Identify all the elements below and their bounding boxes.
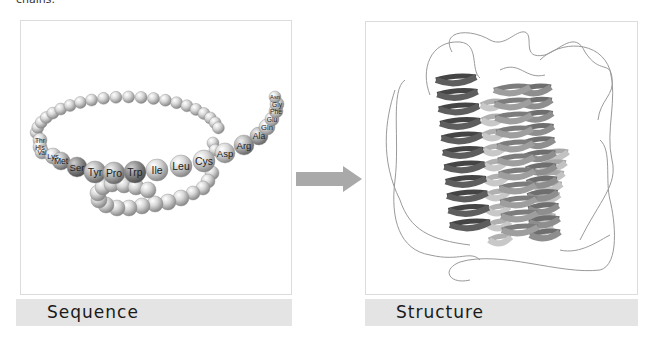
residue-label: Ile	[151, 165, 162, 176]
residue-label: Thr	[35, 137, 46, 144]
residue-label: Asp	[217, 148, 233, 159]
residue-bead	[98, 92, 110, 104]
residue-bead	[148, 92, 160, 104]
sequence-upper-ring	[30, 91, 224, 156]
residue-label: Glu	[267, 116, 278, 123]
residue-label: Gly	[272, 101, 283, 109]
residue-label: Ser	[70, 162, 85, 173]
residue-label: Asn	[270, 94, 280, 100]
residue-bead	[110, 91, 122, 103]
residue-label: Pro	[106, 168, 122, 179]
residue-label: Arg	[237, 140, 252, 151]
illustration-canvas: ThrHisValLysMetSerTyrProTrpIleLeuCysAspA…	[0, 0, 655, 346]
residue-label: Trp	[127, 167, 142, 178]
residue-bead	[140, 182, 156, 198]
residue-label: Gln	[261, 123, 273, 132]
residue-bead	[64, 100, 76, 112]
residue-bead	[212, 122, 224, 134]
residue-label: Val	[37, 149, 47, 156]
residue-label: Leu	[172, 161, 190, 172]
residue-label: Phe	[270, 108, 282, 115]
residue-bead	[74, 96, 86, 108]
residue-bead	[135, 91, 147, 103]
residue-label: Cys	[195, 156, 213, 167]
residue-bead	[86, 94, 98, 106]
arrow-right-icon	[296, 166, 362, 192]
residue-label: Tyr	[88, 167, 103, 178]
structure-helices	[436, 76, 568, 243]
residue-label: Met	[54, 156, 69, 166]
residue-label: Ala	[253, 131, 266, 141]
residue-bead	[123, 91, 135, 103]
residue-bead	[159, 94, 171, 106]
